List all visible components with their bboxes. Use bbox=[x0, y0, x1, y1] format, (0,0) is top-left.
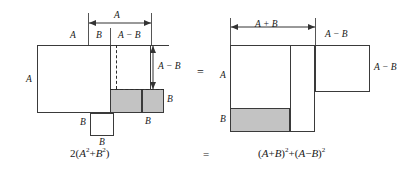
left-equation: 2(A2+B2) bbox=[70, 148, 110, 159]
left-top-label-A: A bbox=[114, 11, 120, 21]
left-eq-term1: A bbox=[79, 147, 86, 159]
left-eq-close-paren: ) bbox=[106, 147, 110, 159]
left-top-label-square-A: A bbox=[70, 31, 76, 41]
right-top-label-A-minus-B: A − B bbox=[325, 30, 348, 40]
left-side-label-A: A bbox=[26, 75, 32, 85]
right-shaded-rect bbox=[230, 108, 290, 132]
left-top-label-B: B bbox=[96, 31, 102, 41]
left-small-square-B bbox=[90, 113, 114, 136]
right-side-label-B: B bbox=[220, 115, 226, 125]
left-dashed-divider-horizontal bbox=[110, 89, 164, 90]
right-side-label-A: A bbox=[220, 71, 226, 81]
left-top-label-A-minus-B: A − B bbox=[118, 31, 141, 41]
left-shaded-rect-2 bbox=[142, 89, 164, 113]
right-dim-tick-start bbox=[230, 18, 231, 46]
equals-sign-middle: = bbox=[197, 66, 204, 78]
left-shaded-rect-1 bbox=[110, 89, 142, 113]
right-equation: (A+B)2+(A−B)2 bbox=[258, 148, 325, 159]
left-bottom-label-B-3: B bbox=[145, 117, 151, 127]
left-top-dimension-arrow-A bbox=[88, 18, 152, 28]
left-right-label-B: B bbox=[167, 95, 173, 105]
left-dim-tick-mid bbox=[110, 28, 111, 45]
left-dim-tick-start bbox=[88, 13, 89, 45]
right-square-vertical-divider bbox=[290, 45, 291, 132]
left-dashed-divider-vertical bbox=[116, 45, 117, 89]
left-dim-tick-end bbox=[151, 13, 152, 45]
equals-sign-bottom: = bbox=[203, 149, 209, 160]
left-right-label-A-minus-B: A − B bbox=[158, 62, 181, 72]
right-square-A-minus-B bbox=[315, 45, 370, 92]
left-dim-extension-top bbox=[151, 45, 169, 46]
left-bottom-label-B-1: B bbox=[80, 118, 86, 128]
right-eq-exponent-2: 2 bbox=[322, 146, 326, 154]
right-dim-tick-end bbox=[315, 18, 316, 46]
right-side-label-A-minus-B: A − B bbox=[374, 63, 397, 73]
geometric-proof-figure: A B A − B A A A − B B B B B = bbox=[0, 0, 406, 174]
left-square-A bbox=[37, 45, 111, 113]
right-top-label-A-plus-B: A + B bbox=[255, 20, 278, 30]
